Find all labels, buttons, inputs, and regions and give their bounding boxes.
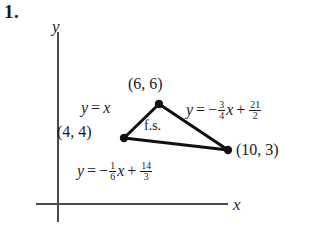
equation-right-edge: y=− 3 4 x+ 21 2 xyxy=(186,100,262,122)
equation-bottom-sign: − xyxy=(99,162,108,179)
x-axis-label: x xyxy=(233,196,241,213)
vertex-label-top: (6, 6) xyxy=(128,76,163,92)
equation-right-intercept-fraction: 21 2 xyxy=(249,100,261,122)
vertex-dot-left xyxy=(120,134,128,142)
equation-right-slope-numerator: 3 xyxy=(218,100,225,110)
equation-bottom-edge: y=− 1 6 x+ 14 3 xyxy=(77,161,153,183)
equation-bottom-plus: + xyxy=(124,162,139,179)
vertex-dot-right xyxy=(224,146,232,154)
y-axis-label: y xyxy=(52,18,60,35)
feasible-set-label: f.s. xyxy=(144,119,161,133)
equation-right-intercept-numerator: 21 xyxy=(249,100,261,110)
equation-right-intercept-denominator: 2 xyxy=(249,110,261,121)
graph-svg xyxy=(0,0,330,231)
equation-left-equals: = xyxy=(88,99,103,116)
equation-right-plus: + xyxy=(233,101,248,118)
equation-right-equals: = xyxy=(193,101,208,118)
equation-right-slope-denominator: 4 xyxy=(218,110,225,121)
equation-left-rhs: x xyxy=(103,99,110,116)
equation-bottom-intercept-fraction: 14 3 xyxy=(140,161,152,183)
equation-bottom-slope-denominator: 6 xyxy=(109,171,116,182)
equation-bottom-equals: = xyxy=(84,162,99,179)
equation-bottom-slope-fraction: 1 6 xyxy=(109,161,116,183)
equation-right-slope-fraction: 3 4 xyxy=(218,100,225,122)
figure-canvas: 1. y x (6, 6) (4, 4) (10, 3) f.s. y=x y=… xyxy=(0,0,330,231)
vertex-dot-top xyxy=(155,100,163,108)
equation-left-edge: y=x xyxy=(81,100,110,116)
vertex-label-right: (10, 3) xyxy=(236,142,279,158)
equation-right-sign: − xyxy=(208,101,217,118)
vertex-label-left: (4, 4) xyxy=(57,124,92,140)
equation-bottom-intercept-denominator: 3 xyxy=(140,171,152,182)
equation-bottom-slope-numerator: 1 xyxy=(109,161,116,171)
equation-bottom-intercept-numerator: 14 xyxy=(140,161,152,171)
